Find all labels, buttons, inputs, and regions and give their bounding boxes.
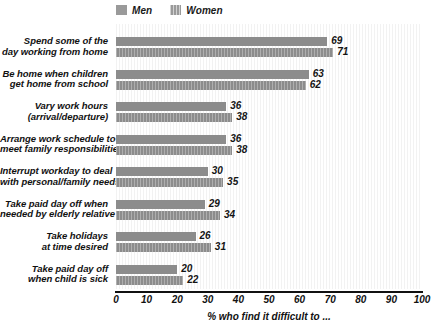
legend-item-women: Women bbox=[170, 5, 222, 16]
bar-row: 63 bbox=[116, 70, 422, 79]
x-axis-line bbox=[115, 291, 423, 293]
category-label: Interrupt workday to dealwith personal/f… bbox=[0, 166, 108, 187]
bar-row: 69 bbox=[116, 37, 422, 46]
x-tick-label: 80 bbox=[355, 294, 366, 305]
bar-men bbox=[116, 200, 205, 209]
x-axis-ticks: 0102030405060708090100 bbox=[116, 294, 422, 307]
bar-group: 3638 bbox=[116, 102, 422, 122]
plot-area: 69716362363836383035293426312022 bbox=[116, 24, 422, 289]
legend-swatch-men-icon bbox=[116, 5, 127, 15]
category-label: Take paid day offwhen child is sick bbox=[0, 264, 108, 285]
x-tick-label: 60 bbox=[294, 294, 305, 305]
bar-value-label: 31 bbox=[215, 241, 226, 253]
bar-group: 6362 bbox=[116, 70, 422, 90]
bar-row: 20 bbox=[116, 265, 422, 274]
bar-value-label: 35 bbox=[227, 176, 238, 188]
chart-legend: Men Women bbox=[116, 3, 223, 17]
bar-value-label: 71 bbox=[337, 46, 348, 58]
bar-women bbox=[116, 276, 183, 285]
bar-value-label: 22 bbox=[187, 274, 198, 286]
bar-row: 29 bbox=[116, 200, 422, 209]
x-tick-label: 30 bbox=[202, 294, 213, 305]
bar-women bbox=[116, 146, 232, 155]
bar-women bbox=[116, 243, 211, 252]
bar-row: 71 bbox=[116, 48, 422, 57]
x-axis-label: % who find it difficult to ... bbox=[116, 311, 422, 322]
legend-item-men: Men bbox=[116, 5, 152, 16]
bar-value-label: 38 bbox=[236, 111, 247, 123]
x-tick-label: 0 bbox=[113, 294, 119, 305]
bar-row: 31 bbox=[116, 243, 422, 252]
x-tick-label: 90 bbox=[386, 294, 397, 305]
legend-label-women: Women bbox=[186, 5, 222, 16]
bar-row: 36 bbox=[116, 102, 422, 111]
bar-women bbox=[116, 211, 220, 220]
bar-row: 26 bbox=[116, 232, 422, 241]
bar-men bbox=[116, 37, 327, 46]
bar-value-label: 30 bbox=[212, 165, 223, 177]
bar-men bbox=[116, 135, 226, 144]
category-axis-labels: Spend some of theday working from homeBe… bbox=[0, 24, 112, 289]
bar-value-label: 29 bbox=[209, 198, 220, 210]
bar-groups: 69716362363836383035293426312022 bbox=[116, 24, 422, 289]
bar-value-label: 38 bbox=[236, 144, 247, 156]
x-tick-label: 50 bbox=[263, 294, 274, 305]
bar-row: 35 bbox=[116, 178, 422, 187]
legend-label-men: Men bbox=[132, 5, 152, 16]
category-label: Arrange work schedule tomeet family resp… bbox=[0, 134, 108, 155]
x-tick-label: 100 bbox=[414, 294, 431, 305]
bar-group: 2022 bbox=[116, 265, 422, 285]
bar-row: 34 bbox=[116, 211, 422, 220]
bar-group: 3638 bbox=[116, 135, 422, 155]
category-label: Be home when childrenget home from schoo… bbox=[0, 69, 108, 90]
bar-men bbox=[116, 265, 177, 274]
bar-row: 36 bbox=[116, 135, 422, 144]
bar-value-label: 26 bbox=[200, 230, 211, 242]
bar-row: 38 bbox=[116, 146, 422, 155]
x-tick-label: 40 bbox=[233, 294, 244, 305]
bar-row: 62 bbox=[116, 81, 422, 90]
x-tick-label: 20 bbox=[172, 294, 183, 305]
category-label: Spend some of theday working from home bbox=[0, 36, 108, 57]
category-label: Take holidaysat time desired bbox=[0, 231, 108, 252]
bar-women bbox=[116, 178, 223, 187]
bar-women bbox=[116, 81, 306, 90]
bar-value-label: 62 bbox=[310, 79, 321, 91]
bar-group: 6971 bbox=[116, 37, 422, 57]
bar-women bbox=[116, 113, 232, 122]
bar-men bbox=[116, 232, 196, 241]
category-label: Take paid day off whenneeded by elderly … bbox=[0, 199, 108, 220]
x-tick-label: 70 bbox=[325, 294, 336, 305]
bar-row: 38 bbox=[116, 113, 422, 122]
bar-row: 30 bbox=[116, 167, 422, 176]
bar-group: 2934 bbox=[116, 200, 422, 220]
bar-group: 2631 bbox=[116, 232, 422, 252]
bar-row: 22 bbox=[116, 276, 422, 285]
bar-group: 3035 bbox=[116, 167, 422, 187]
legend-swatch-women-icon bbox=[170, 5, 181, 15]
x-tick-label: 10 bbox=[141, 294, 152, 305]
bar-men bbox=[116, 70, 309, 79]
bar-women bbox=[116, 48, 333, 57]
bar-value-label: 34 bbox=[224, 209, 235, 221]
bar-men bbox=[116, 167, 208, 176]
bar-men bbox=[116, 102, 226, 111]
category-label: Vary work hours(arrival/departure) bbox=[0, 101, 108, 122]
